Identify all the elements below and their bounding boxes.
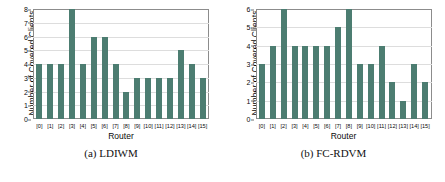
bar bbox=[80, 64, 86, 119]
bar bbox=[134, 78, 140, 119]
y-tick-mark bbox=[28, 50, 31, 51]
bar bbox=[189, 64, 195, 119]
bar bbox=[379, 46, 385, 119]
y-tick-label: 4 bbox=[24, 61, 28, 68]
y-tick-label: 1 bbox=[24, 102, 28, 109]
y-tick-mark bbox=[28, 92, 31, 93]
bar bbox=[302, 46, 308, 119]
bar-slot bbox=[110, 9, 121, 119]
bar bbox=[357, 64, 363, 119]
x-axis-label-b: Router bbox=[256, 131, 432, 141]
bar-slot bbox=[420, 9, 431, 119]
bar bbox=[113, 64, 119, 119]
y-tick-label: 5 bbox=[24, 47, 28, 54]
y-tick-mark bbox=[28, 23, 31, 24]
chart-b: Number of Covered Clients 0123456 [0][1]… bbox=[234, 7, 434, 139]
bar-slot bbox=[365, 9, 376, 119]
bar-slot bbox=[132, 9, 143, 119]
bar-slot bbox=[398, 9, 409, 119]
bar-slot bbox=[267, 9, 278, 119]
bar bbox=[259, 64, 265, 119]
bar-slot bbox=[289, 9, 300, 119]
y-axis-ticks-b: 0123456 bbox=[234, 9, 254, 119]
bar-slot bbox=[376, 9, 387, 119]
bar-slot bbox=[354, 9, 365, 119]
bar-slot bbox=[67, 9, 78, 119]
y-tick-mark bbox=[251, 82, 254, 83]
y-tick-label: 4 bbox=[247, 42, 251, 49]
bar bbox=[36, 64, 42, 119]
bar-slot bbox=[278, 9, 289, 119]
bar-slot bbox=[186, 9, 197, 119]
y-tick-label: 6 bbox=[24, 33, 28, 40]
y-tick-label: 2 bbox=[247, 79, 251, 86]
bar bbox=[389, 82, 395, 119]
x-axis-label-a: Router bbox=[33, 131, 209, 141]
bar bbox=[47, 64, 53, 119]
bar-slot bbox=[322, 9, 333, 119]
y-axis-ticks-a: 012345678 bbox=[11, 9, 31, 119]
bar-slot bbox=[165, 9, 176, 119]
chart-a: Number of Covered Clients 012345678 [0][… bbox=[11, 7, 211, 139]
bar bbox=[292, 46, 298, 119]
y-tick-label: 1 bbox=[247, 97, 251, 104]
y-tick-mark bbox=[251, 64, 254, 65]
y-tick-label: 0 bbox=[247, 116, 251, 123]
plot-area-b bbox=[256, 9, 432, 119]
bar bbox=[346, 9, 352, 119]
bar-slot bbox=[333, 9, 344, 119]
bar-series-a bbox=[33, 9, 209, 119]
bar-slot bbox=[99, 9, 110, 119]
y-tick-label: 7 bbox=[24, 19, 28, 26]
y-tick-label: 5 bbox=[247, 24, 251, 31]
bar bbox=[400, 101, 406, 119]
y-tick-mark bbox=[28, 119, 31, 120]
bar bbox=[167, 78, 173, 119]
bar-slot bbox=[175, 9, 186, 119]
y-tick-mark bbox=[251, 46, 254, 47]
y-tick-mark bbox=[251, 101, 254, 102]
bar-slot bbox=[56, 9, 67, 119]
y-tick-mark bbox=[251, 9, 254, 10]
panel-caption-b: (b) FC-RDVM bbox=[301, 147, 367, 159]
bar-slot bbox=[121, 9, 132, 119]
bar-slot bbox=[78, 9, 89, 119]
chart-panel-b: Number of Covered Clients 0123456 [0][1]… bbox=[222, 0, 445, 182]
bar bbox=[91, 37, 97, 120]
chart-panel-a: Number of Covered Clients 012345678 [0][… bbox=[0, 0, 222, 182]
bar-slot bbox=[143, 9, 154, 119]
bar-slot bbox=[88, 9, 99, 119]
bar bbox=[156, 78, 162, 119]
y-tick-mark bbox=[251, 27, 254, 28]
bar bbox=[69, 9, 75, 119]
bar bbox=[145, 78, 151, 119]
bar-slot bbox=[154, 9, 165, 119]
y-tick-label: 2 bbox=[24, 88, 28, 95]
y-tick-label: 3 bbox=[247, 61, 251, 68]
bar bbox=[102, 37, 108, 120]
bar bbox=[123, 92, 129, 120]
bar-series-b bbox=[256, 9, 432, 119]
plot-area-a bbox=[33, 9, 209, 119]
bar bbox=[281, 9, 287, 119]
y-tick-label: 6 bbox=[247, 6, 251, 13]
y-tick-label: 0 bbox=[24, 116, 28, 123]
bar bbox=[368, 64, 374, 119]
bar bbox=[178, 50, 184, 119]
y-tick-mark bbox=[28, 64, 31, 65]
bar bbox=[335, 27, 341, 119]
y-tick-mark bbox=[251, 119, 254, 120]
bar bbox=[324, 46, 330, 119]
panel-caption-a: (a) LDIWM bbox=[84, 147, 137, 159]
y-tick-mark bbox=[28, 105, 31, 106]
bar-slot bbox=[257, 9, 268, 119]
figure-row: Number of Covered Clients 012345678 [0][… bbox=[0, 0, 445, 182]
y-tick-mark bbox=[28, 37, 31, 38]
bar bbox=[313, 46, 319, 119]
y-tick-mark bbox=[28, 9, 31, 10]
y-tick-label: 8 bbox=[24, 6, 28, 13]
bar-slot bbox=[387, 9, 398, 119]
y-tick-label: 3 bbox=[24, 74, 28, 81]
bar-slot bbox=[344, 9, 355, 119]
bar bbox=[411, 64, 417, 119]
